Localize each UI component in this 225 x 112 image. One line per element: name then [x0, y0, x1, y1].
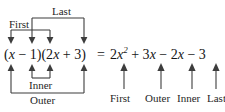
right-arrow-first	[120, 63, 127, 89]
right-label-first: First	[110, 92, 130, 104]
right-arrow-last	[212, 63, 219, 89]
right-label-outer: Outer	[145, 92, 170, 104]
right-arrow-inner	[188, 63, 195, 89]
foil-diagram: First Last (x − 1)(2x + 3) =	[0, 0, 225, 112]
right-label-last: Last	[207, 92, 225, 104]
right-arrow-outer	[157, 63, 164, 89]
right-label-inner: Inner	[177, 92, 200, 104]
